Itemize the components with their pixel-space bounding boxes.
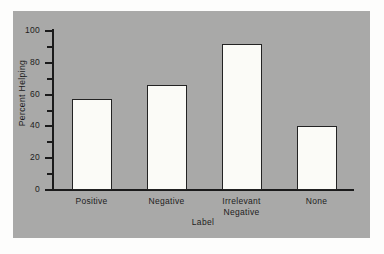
y-axis-tick <box>45 62 52 64</box>
x-axis-category-label-line: None <box>272 196 362 207</box>
y-axis-minor-tick <box>47 141 52 143</box>
y-axis-tick-label: 80 <box>0 57 40 67</box>
y-axis-tick-label: 60 <box>0 89 40 99</box>
y-axis-tick <box>45 30 52 32</box>
y-axis-tick-label: 100 <box>0 25 40 35</box>
figure-container: Percent Helping 020406080100 PositiveNeg… <box>0 0 384 254</box>
y-axis-tick-label: 0 <box>0 184 40 194</box>
bar <box>147 85 187 190</box>
bar <box>72 99 112 190</box>
y-axis-tick-label: 20 <box>0 152 40 162</box>
y-axis-tick <box>45 125 52 127</box>
y-axis-line <box>52 29 54 191</box>
y-axis-tick <box>45 94 52 96</box>
y-axis-minor-tick <box>47 173 52 175</box>
x-axis-category-label-line: Negative <box>197 207 287 218</box>
y-axis-tick-label: 40 <box>0 120 40 130</box>
y-axis-tick <box>45 157 52 159</box>
y-axis-minor-tick <box>47 46 52 48</box>
y-axis-minor-tick <box>47 110 52 112</box>
x-axis-category-label: None <box>272 196 362 207</box>
y-axis-tick <box>45 189 52 191</box>
bar <box>222 44 262 190</box>
bar <box>297 126 337 190</box>
x-axis-title: Label <box>52 217 354 227</box>
bar-chart: Percent Helping 020406080100 PositiveNeg… <box>0 0 384 254</box>
y-axis-minor-tick <box>47 78 52 80</box>
